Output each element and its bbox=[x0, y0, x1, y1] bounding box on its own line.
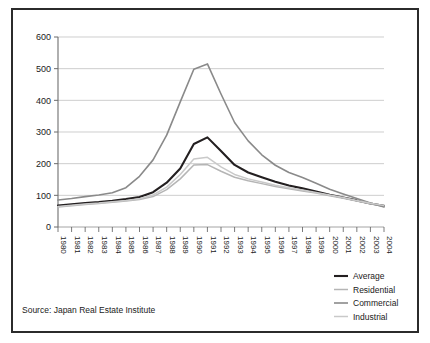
x-axis-tick-label: 1998 bbox=[304, 236, 313, 254]
x-axis-tick-label: 1996 bbox=[277, 236, 286, 254]
x-axis-tick-label: 1991 bbox=[209, 236, 218, 254]
x-axis-tick-label: 1980 bbox=[59, 236, 68, 254]
legend-label-residential: Residential bbox=[353, 285, 395, 295]
series-line-industrial bbox=[58, 157, 384, 206]
source-note: Source: Japan Real Estate Institute bbox=[22, 305, 155, 315]
x-axis-tick-label: 1990 bbox=[195, 236, 204, 254]
x-axis-tick-label: 1984 bbox=[114, 236, 123, 254]
legend-label-average: Average bbox=[353, 271, 385, 281]
x-axis-tick-label: 2003 bbox=[372, 236, 381, 254]
x-axis-tick-label: 1994 bbox=[249, 236, 258, 254]
series-line-commercial bbox=[58, 64, 384, 207]
x-axis-tick-label: 1989 bbox=[181, 236, 190, 254]
x-axis-tick-label: 1986 bbox=[141, 236, 150, 254]
x-axis-tick-label: 1985 bbox=[127, 236, 136, 254]
x-axis-tick-label: 1997 bbox=[290, 236, 299, 254]
x-axis-tick-label: 1999 bbox=[317, 236, 326, 254]
x-axis-tick-label: 1987 bbox=[154, 236, 163, 254]
x-axis-tick-label: 1981 bbox=[73, 236, 82, 254]
legend-label-industrial: Industrial bbox=[353, 312, 388, 322]
x-axis-tick-label: 1995 bbox=[263, 236, 272, 254]
x-axis-tick-label: 1992 bbox=[222, 236, 231, 254]
y-axis-tick-label: 300 bbox=[36, 127, 51, 137]
y-axis-tick-label: 400 bbox=[36, 96, 51, 106]
y-axis-tick-label: 500 bbox=[36, 64, 51, 74]
legend-label-commercial: Commercial bbox=[353, 298, 398, 308]
y-axis-tick-label: 0 bbox=[46, 222, 51, 232]
chart-figure: 0100200300400500600198019811982198319841… bbox=[0, 0, 430, 343]
x-axis-tick-label: 1993 bbox=[236, 236, 245, 254]
x-axis-tick-label: 2000 bbox=[331, 236, 340, 254]
x-axis-tick-label: 2002 bbox=[358, 236, 367, 254]
x-axis-tick-label: 2004 bbox=[385, 236, 394, 254]
y-axis-tick-label: 200 bbox=[36, 159, 51, 169]
x-axis-tick-label: 1983 bbox=[100, 236, 109, 254]
x-axis-tick-label: 1982 bbox=[86, 236, 95, 254]
y-axis-tick-label: 100 bbox=[36, 191, 51, 201]
line-chart: 0100200300400500600198019811982198319841… bbox=[0, 0, 430, 343]
x-axis-tick-label: 1988 bbox=[168, 236, 177, 254]
x-axis-tick-label: 2001 bbox=[344, 236, 353, 254]
y-axis-tick-label: 600 bbox=[36, 32, 51, 42]
